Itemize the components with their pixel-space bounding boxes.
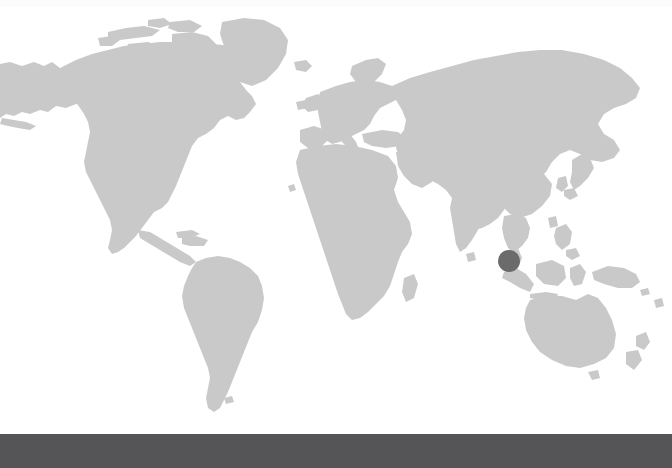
land-aleutians [0, 118, 36, 130]
land-india [450, 192, 484, 252]
land-south-america [182, 256, 264, 412]
land-indochina [502, 214, 530, 252]
land-philippines-south [566, 248, 580, 260]
land-iberia [300, 126, 328, 148]
land-iceland [294, 60, 312, 72]
land-arctic-fragment-b [148, 18, 172, 28]
land-ellesmere [168, 20, 202, 32]
land-sri-lanka [466, 252, 476, 262]
bottom-bar [0, 434, 672, 468]
top-faint-band [0, 0, 672, 7]
land-taiwan [548, 216, 558, 228]
land-madagascar [402, 274, 418, 302]
screenshot-root [0, 0, 672, 468]
map-container[interactable] [0, 0, 672, 434]
land-cape-verde [288, 184, 296, 192]
world-map-svg[interactable] [0, 0, 672, 434]
land-japan-south [564, 188, 578, 200]
land-new-zealand-north [636, 332, 650, 350]
land-fiji-islands [654, 298, 664, 308]
location-marker-dot[interactable] [498, 250, 520, 272]
land-africa [296, 144, 412, 320]
land-japan [570, 154, 594, 190]
land-australia [524, 294, 616, 368]
land-falklands [224, 396, 234, 404]
land-tasmania [588, 370, 600, 380]
land-pacific-islets [640, 288, 650, 296]
land-sulawesi [570, 264, 586, 286]
land-philippines [554, 224, 572, 250]
land-new-zealand-south [626, 350, 642, 370]
land-north-america [60, 42, 258, 254]
land-borneo [536, 260, 566, 286]
land-masses [0, 18, 664, 412]
land-new-guinea [592, 266, 640, 288]
